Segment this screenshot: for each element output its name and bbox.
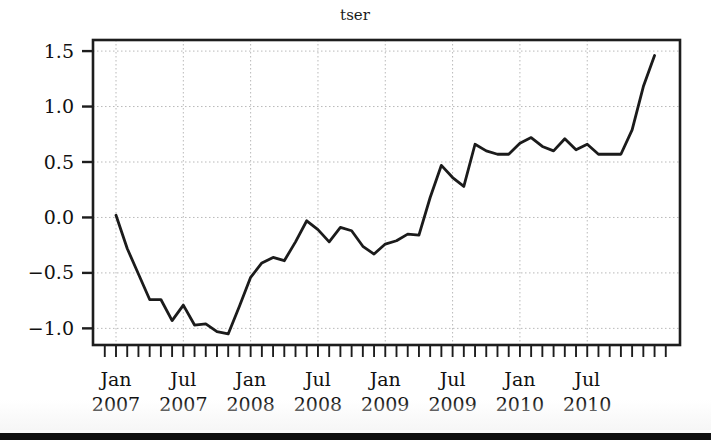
x-tick-label-month: Jan <box>368 368 401 390</box>
x-tick-label-month: Jul <box>168 368 196 390</box>
x-tick-label-month: Jan <box>98 368 131 390</box>
y-tick-label: 1.5 <box>44 40 74 62</box>
time-series-chart: tser −1.0−0.50.00.51.01.5 Jan2007Jul2007… <box>0 0 711 446</box>
x-tick-label-year: 2010 <box>496 393 544 415</box>
x-tick-label-month: Jul <box>438 368 466 390</box>
y-tick-label: −0.5 <box>28 261 74 283</box>
x-tick-label-year: 2008 <box>226 393 274 415</box>
plot-frame <box>93 40 680 345</box>
x-tick-label-month: Jul <box>572 368 600 390</box>
y-tick-label: 1.0 <box>44 95 74 117</box>
x-tick-label-year: 2009 <box>428 393 476 415</box>
x-axis-ticks <box>105 346 666 357</box>
x-tick-label-year: 2009 <box>361 393 409 415</box>
x-tick-label-month: Jan <box>233 368 266 390</box>
x-tick-label-year: 2007 <box>159 393 207 415</box>
chart-figure: tser −1.0−0.50.00.51.01.5 Jan2007Jul2007… <box>0 0 711 446</box>
page-edge-bar <box>0 433 711 440</box>
x-tick-label-year: 2008 <box>294 393 342 415</box>
y-tick-label: −1.0 <box>28 317 74 339</box>
x-tick-label-month: Jul <box>303 368 331 390</box>
x-axis-labels: Jan2007Jul2007Jan2008Jul2008Jan2009Jul20… <box>92 368 612 415</box>
chart-title: tser <box>340 6 371 24</box>
x-tick-label-year: 2007 <box>92 393 140 415</box>
y-tick-label: 0.0 <box>44 206 74 228</box>
y-tick-label: 0.5 <box>44 151 74 173</box>
x-tick-label-year: 2010 <box>563 393 611 415</box>
y-axis-ticks: −1.0−0.50.00.51.01.5 <box>28 40 93 339</box>
chart-gridlines <box>93 40 680 345</box>
x-tick-label-month: Jan <box>502 368 535 390</box>
